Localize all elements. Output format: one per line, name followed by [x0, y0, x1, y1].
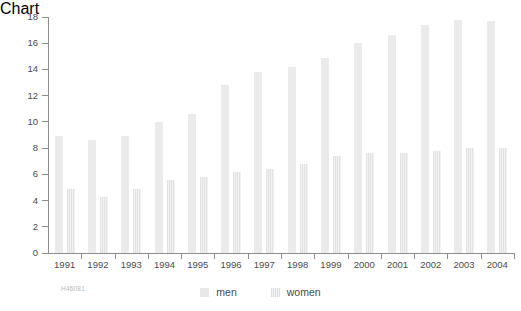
bar-men-2002: [421, 25, 429, 253]
y-tick-label: 14: [27, 62, 38, 75]
x-axis-tick-mark: [514, 253, 515, 259]
x-axis-label-1999: 1999: [314, 259, 347, 270]
bar-women-1993: [133, 189, 141, 253]
x-axis-tick-mark: [115, 253, 116, 259]
bar-women-2003: [466, 148, 474, 253]
plot-area: [48, 17, 514, 253]
bar-women-1994: [167, 180, 175, 253]
y-tick-label: 18: [27, 10, 38, 23]
x-axis-tick-mark: [248, 253, 249, 259]
bar-women-2001: [400, 153, 408, 253]
bar-men-1992: [88, 140, 96, 253]
bar-men-1999: [321, 58, 329, 253]
x-axis-tick-mark: [314, 253, 315, 259]
bar-chart: 024681012141618 199119921993199419951996…: [0, 0, 521, 311]
bar-women-1996: [233, 172, 241, 253]
y-tick-label: 8: [33, 141, 38, 154]
bar-women-1992: [100, 197, 108, 253]
bar-men-1994: [155, 122, 163, 253]
bar-women-2004: [499, 148, 507, 253]
legend-label-women: women: [287, 286, 321, 298]
bar-men-1998: [288, 67, 296, 253]
x-axis-label-1991: 1991: [48, 259, 81, 270]
bar-men-2003: [454, 20, 462, 253]
bar-men-2001: [388, 35, 396, 253]
y-tick-label: 6: [33, 167, 38, 180]
y-tick-label: 16: [27, 36, 38, 49]
bar-men-2000: [354, 43, 362, 253]
bar-women-1999: [333, 156, 341, 253]
x-axis-label-1996: 1996: [214, 259, 247, 270]
bar-men-1995: [188, 114, 196, 253]
bar-men-1996: [221, 85, 229, 253]
x-axis-tick-mark: [348, 253, 349, 259]
legend-item-men[interactable]: men: [200, 286, 236, 298]
x-axis-tick-mark: [414, 253, 415, 259]
x-axis-label-2001: 2001: [381, 259, 414, 270]
x-axis-label-1992: 1992: [81, 259, 114, 270]
bar-men-2004: [487, 21, 495, 253]
bar-men-1997: [254, 72, 262, 253]
x-axis-tick-mark: [381, 253, 382, 259]
x-axis-tick-mark: [447, 253, 448, 259]
x-axis-label-1993: 1993: [115, 259, 148, 270]
legend-label-men: men: [216, 286, 236, 298]
x-axis-label-1994: 1994: [148, 259, 181, 270]
bar-women-2002: [433, 151, 441, 253]
legend-swatch-men: [200, 288, 209, 297]
y-tick-label: 12: [27, 89, 38, 102]
x-axis-tick-mark: [181, 253, 182, 259]
x-axis-label-2003: 2003: [447, 259, 480, 270]
x-axis-tick-mark: [81, 253, 82, 259]
y-tick-label: 0: [33, 246, 38, 259]
y-tick-label: 2: [33, 220, 38, 233]
legend-swatch-women: [271, 288, 280, 297]
x-axis-tick-mark: [281, 253, 282, 259]
x-axis-label-2002: 2002: [414, 259, 447, 270]
bar-women-2000: [366, 153, 374, 253]
x-axis-label-1997: 1997: [248, 259, 281, 270]
chart-legend: menwomen: [0, 286, 521, 298]
x-axis-tick-mark: [148, 253, 149, 259]
bar-women-1997: [266, 169, 274, 253]
x-axis-tick-mark: [481, 253, 482, 259]
y-tick-label: 4: [33, 194, 38, 207]
x-axis-label-2004: 2004: [481, 259, 514, 270]
bar-men-1993: [121, 136, 129, 253]
x-axis-label-2000: 2000: [348, 259, 381, 270]
x-axis-label-1998: 1998: [281, 259, 314, 270]
bar-women-1998: [300, 164, 308, 253]
bar-women-1995: [200, 177, 208, 253]
x-axis-label-1995: 1995: [181, 259, 214, 270]
legend-item-women[interactable]: women: [271, 286, 321, 298]
y-tick-label: 10: [27, 115, 38, 128]
x-axis-tick-mark: [214, 253, 215, 259]
bar-women-1991: [67, 189, 75, 253]
bar-men-1991: [55, 136, 63, 253]
